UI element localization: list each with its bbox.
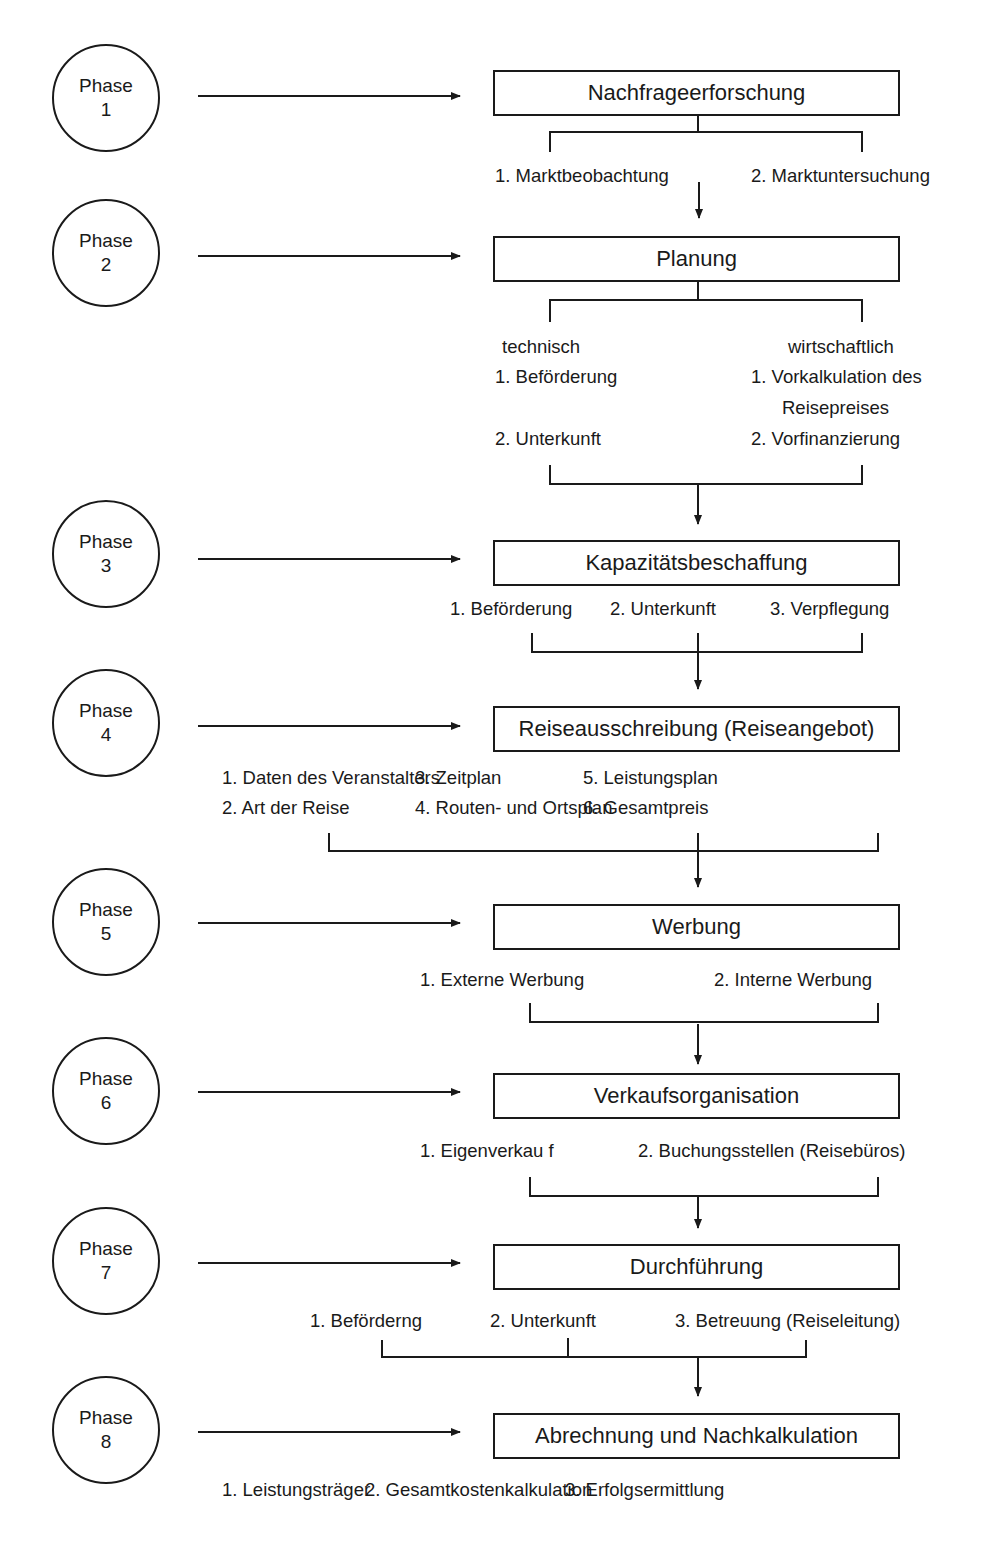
phase-2-wirtschaftlich-item-1: 1. Vorkalkulation des — [751, 366, 922, 388]
phase-3-circle: Phase 3 — [52, 500, 160, 608]
phase-8-item-3: 3. Erfolgsermittlung — [565, 1479, 724, 1501]
phase-6-number: 6 — [101, 1091, 112, 1115]
phase-3-number: 3 — [101, 554, 112, 578]
phase-5-word: Phase — [79, 898, 133, 922]
phase-4-item-1: 1. Daten des Veranstalters — [222, 767, 440, 789]
phase-8-box: Abrechnung und Nachkalkulation — [493, 1413, 900, 1459]
phase-5-item-1: 1. Externe Werbung — [420, 969, 584, 991]
phase-2-group-technisch-heading: technisch — [502, 336, 580, 358]
phase-5-circle: Phase 5 — [52, 868, 160, 976]
phase-3-box: Kapazitätsbeschaffung — [493, 540, 900, 586]
phase-2-wirtschaftlich-item-1-cont: Reisepreises — [782, 397, 889, 419]
phase-2-technisch-item-1: 1. Beförderung — [495, 366, 617, 388]
phase-4-circle: Phase 4 — [52, 669, 160, 777]
phase-1-item-2: 2. Marktuntersuchung — [751, 165, 930, 187]
phase-4-item-5: 5. Leistungsplan — [583, 767, 718, 789]
phase-2-group-wirtschaftlich-heading: wirtschaftlich — [788, 336, 894, 358]
phase-2-circle: Phase 2 — [52, 199, 160, 307]
phase-4-item-6: 6. Gesamtpreis — [583, 797, 708, 819]
phase-6-box: Verkaufsorganisation — [493, 1073, 900, 1119]
phase-2-technisch-item-2: 2. Unterkunft — [495, 428, 601, 450]
phase-1-circle: Phase 1 — [52, 44, 160, 152]
phase-2-wirtschaftlich-item-2: 2. Vorfinanzierung — [751, 428, 900, 450]
phase-7-word: Phase — [79, 1237, 133, 1261]
phase-6-item-2: 2. Buchungsstellen (Reisebüros) — [638, 1140, 905, 1162]
phase-1-item-1: 1. Marktbeobachtung — [495, 165, 669, 187]
phase-3-item-3: 3. Verpflegung — [770, 598, 889, 620]
phase-5-box: Werbung — [493, 904, 900, 950]
phase-1-number: 1 — [101, 98, 112, 122]
phase-3-item-2: 2. Unterkunft — [610, 598, 716, 620]
phase-8-item-1: 1. Leistungsträger — [222, 1479, 370, 1501]
phase-3-item-1: 1. Beförderung — [450, 598, 572, 620]
phase-8-item-2: 2. Gesamtkostenkalkulation — [365, 1479, 592, 1501]
phase-2-box: Planung — [493, 236, 900, 282]
phase-8-circle: Phase 8 — [52, 1376, 160, 1484]
phase-2-word: Phase — [79, 229, 133, 253]
phase-7-number: 7 — [101, 1261, 112, 1285]
phase-4-word: Phase — [79, 699, 133, 723]
phase-8-word: Phase — [79, 1406, 133, 1430]
phase-7-circle: Phase 7 — [52, 1207, 160, 1315]
phase-6-circle: Phase 6 — [52, 1037, 160, 1145]
phase-5-number: 5 — [101, 922, 112, 946]
phase-2-number: 2 — [101, 253, 112, 277]
phase-3-word: Phase — [79, 530, 133, 554]
phase-5-item-2: 2. Interne Werbung — [714, 969, 872, 991]
phase-4-box: Reiseausschreibung (Reiseangebot) — [493, 706, 900, 752]
phase-1-word: Phase — [79, 74, 133, 98]
phase-6-word: Phase — [79, 1067, 133, 1091]
phase-6-item-1: 1. Eigenverkau f — [420, 1140, 554, 1162]
phase-4-item-2: 2. Art der Reise — [222, 797, 350, 819]
phase-4-number: 4 — [101, 723, 112, 747]
phase-7-box: Durchführung — [493, 1244, 900, 1290]
phase-7-item-3: 3. Betreuung (Reiseleitung) — [675, 1310, 900, 1332]
phase-4-item-3: 3. Zeitplan — [415, 767, 501, 789]
phase-1-box: Nachfrageerforschung — [493, 70, 900, 116]
phase-7-item-2: 2. Unterkunft — [490, 1310, 596, 1332]
phase-7-item-1: 1. Beförderng — [310, 1310, 422, 1332]
phase-8-number: 8 — [101, 1430, 112, 1454]
